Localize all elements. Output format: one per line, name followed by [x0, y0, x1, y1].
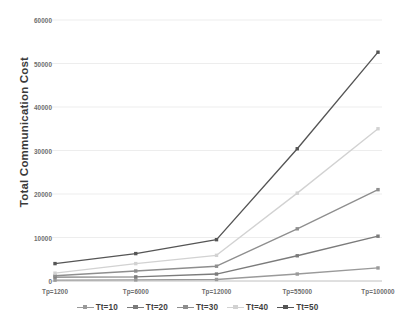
series-line-Tt=30: [55, 190, 378, 276]
data-point-Tt=10-Tp=55000: [296, 272, 299, 275]
data-point-Tt=50-Tp=12000: [215, 238, 218, 241]
data-point-Tt=30-Tp=55000: [296, 227, 299, 230]
legend-label: Tt=40: [246, 303, 268, 312]
legend-item-Tt=10[interactable]: Tt=10: [77, 303, 118, 312]
y-axis-tick-30000: 30000: [4, 147, 52, 154]
data-point-Tt=50-Tp=55000: [296, 147, 299, 150]
data-point-Tt=10-Tp=6000: [134, 278, 137, 281]
legend-marker-icon: [127, 304, 144, 312]
legend-label: Tt=20: [146, 303, 168, 312]
data-point-Tt=30-Tp=100000: [376, 188, 379, 191]
data-point-Tt=20-Tp=12000: [215, 272, 218, 275]
data-point-Tt=30-Tp=6000: [134, 269, 137, 272]
data-point-Tt=20-Tp=55000: [296, 254, 299, 257]
legend-item-Tt=40[interactable]: Tt=40: [227, 303, 268, 312]
legend-marker-icon: [277, 304, 294, 312]
x-axis-tick-3: Tp=55000: [282, 288, 312, 295]
data-point-Tt=20-Tp=6000: [134, 275, 137, 278]
legend-item-Tt=20[interactable]: Tt=20: [127, 303, 168, 312]
y-axis-tick-10000: 10000: [4, 234, 52, 241]
legend-label: Tt=50: [296, 303, 318, 312]
data-point-Tt=50-Tp=1200: [53, 262, 56, 265]
y-axis-tick-20000: 20000: [4, 191, 52, 198]
y-axis-tick-labels: 0100002000030000400005000060000: [0, 0, 52, 328]
legend-item-Tt=50[interactable]: Tt=50: [277, 303, 318, 312]
data-point-Tt=40-Tp=1200: [53, 271, 56, 274]
data-point-Tt=50-Tp=6000: [134, 252, 137, 255]
legend-item-Tt=30[interactable]: Tt=30: [177, 303, 218, 312]
data-point-Tt=10-Tp=12000: [215, 278, 218, 281]
legend-label: Tt=30: [196, 303, 218, 312]
data-point-Tt=40-Tp=100000: [376, 127, 379, 130]
data-point-Tt=50-Tp=100000: [376, 50, 379, 53]
data-point-Tt=10-Tp=1200: [53, 278, 56, 281]
y-axis-tick-40000: 40000: [4, 104, 52, 111]
data-point-Tt=30-Tp=12000: [215, 265, 218, 268]
x-axis-tick-2: Tp=12000: [202, 288, 232, 295]
data-point-Tt=20-Tp=100000: [376, 234, 379, 237]
data-point-Tt=40-Tp=12000: [215, 254, 218, 257]
y-axis-tick-60000: 60000: [4, 17, 52, 24]
legend-label: Tt=10: [96, 303, 118, 312]
legend-marker-icon: [77, 304, 94, 312]
x-axis-tick-1: Tp=6000: [123, 288, 149, 295]
data-point-Tt=10-Tp=100000: [376, 266, 379, 269]
legend-marker-icon: [177, 304, 194, 312]
plot-area: [0, 0, 395, 328]
y-axis-tick-50000: 50000: [4, 60, 52, 67]
series-line-Tt=50: [55, 52, 378, 263]
legend-marker-icon: [227, 304, 244, 312]
x-axis-tick-0: Tp=1200: [42, 288, 68, 295]
y-axis-tick-0: 0: [4, 278, 52, 285]
chart-legend: Tt=10Tt=20Tt=30Tt=40Tt=50: [0, 303, 395, 312]
data-point-Tt=40-Tp=6000: [134, 262, 137, 265]
x-axis-tick-4: Tp=100000: [361, 288, 394, 295]
data-point-Tt=40-Tp=55000: [296, 191, 299, 194]
line-chart: Total Communication Cost 010000200003000…: [0, 0, 395, 328]
